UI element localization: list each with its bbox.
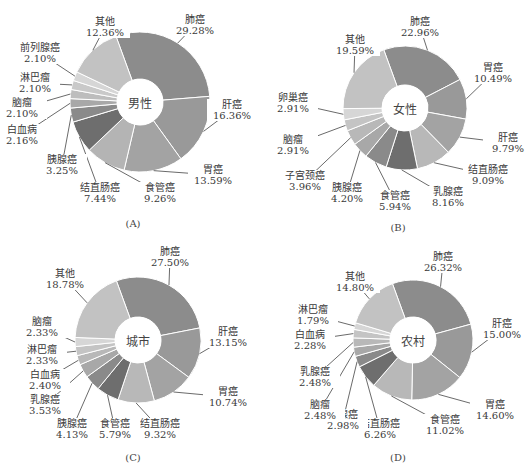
slice-category: 白血病 — [285, 329, 335, 340]
slice-percent: 9.09% — [463, 175, 513, 186]
slice-percent: 14.80% — [330, 282, 380, 293]
slice-label: 白血病2.16% — [0, 124, 47, 146]
slice-label: 脑瘤2.10% — [0, 97, 47, 119]
slice-label: 淋巴瘤2.33% — [17, 344, 67, 366]
slice-percent: 10.74% — [203, 397, 253, 408]
caption: (C) — [125, 452, 140, 463]
slice-category: 前列腺癌 — [15, 42, 65, 53]
slice-percent: 2.40% — [20, 380, 70, 391]
slice-label: 脑瘤2.33% — [17, 316, 67, 338]
slice-label: 肺癌29.28% — [170, 14, 220, 36]
slice-percent: 19.59% — [330, 45, 380, 56]
caption: (A) — [125, 218, 140, 229]
slice-percent: 10.49% — [468, 73, 518, 84]
slice-label: 肝癌15.00% — [477, 318, 527, 340]
slice-percent: 2.48% — [295, 410, 345, 421]
slice-label: 卵巢癌2.91% — [268, 92, 318, 114]
slice-label: 肝癌9.79% — [483, 132, 530, 154]
slice-percent: 4.13% — [47, 429, 97, 440]
slice-label: 食管癌9.26% — [135, 182, 185, 204]
slice-category: 淋巴瘤 — [10, 72, 60, 83]
slice-percent: 15.00% — [477, 329, 527, 340]
slice-percent: 4.20% — [322, 193, 372, 204]
slice-percent: 2.28% — [285, 340, 335, 351]
slice-category: 食管癌 — [90, 418, 140, 429]
slice-category: 结直肠癌 — [135, 418, 185, 429]
slice-label: 胃癌14.60% — [470, 399, 520, 421]
slice-category: 子宫颈癌 — [280, 170, 330, 181]
slice-label: 淋巴瘤1.79% — [288, 304, 338, 326]
slice-label: 肝癌13.15% — [203, 326, 253, 348]
slice-label: 胃癌13.59% — [188, 164, 238, 186]
slice-percent: 13.59% — [188, 175, 238, 186]
slice-label: 食管癌5.94% — [370, 190, 420, 212]
slice-category: 肝癌 — [203, 326, 253, 337]
slice-percent: 9.79% — [483, 143, 530, 154]
center-label: 男性 — [128, 94, 152, 111]
slice-percent: 3.96% — [280, 181, 330, 192]
center-label: 城市 — [126, 332, 150, 349]
slice-percent: 1.79% — [288, 315, 338, 326]
slice-category: 脑瘤 — [295, 399, 345, 410]
slice-label: 白血病2.40% — [20, 369, 70, 391]
slice-category: 结直肠癌 — [75, 182, 125, 193]
slice-percent: 2.10% — [15, 53, 65, 64]
slice-percent: 11.02% — [420, 425, 470, 436]
slice-category: 胰腺癌 — [37, 154, 87, 165]
slice-percent: 26.32% — [418, 262, 468, 273]
slice-percent: 29.28% — [170, 25, 220, 36]
slice-percent: 3.25% — [37, 165, 87, 176]
slice-label: 结直肠癌9.09% — [463, 164, 513, 186]
slice-label: 胃癌10.74% — [203, 386, 253, 408]
slice-category: 肺癌 — [395, 16, 445, 27]
slice-label: 肺癌26.32% — [418, 251, 468, 273]
pie-chart-male: 男性 (A) 肺癌29.28%肝癌16.36%胃癌13.59%食管癌9.26%结… — [0, 0, 265, 232]
slice-category: 乳腺癌 — [290, 366, 340, 377]
slice-category: 肺癌 — [145, 246, 195, 257]
slice-category: 肺癌 — [170, 14, 220, 25]
slice-category: 食管癌 — [135, 182, 185, 193]
slice-percent: 2.10% — [10, 83, 60, 94]
slice-percent: 27.50% — [145, 257, 195, 268]
slice-label: 脑瘤2.91% — [268, 134, 318, 156]
slice-percent: 12.36% — [80, 27, 130, 38]
slice-label: 肺癌22.96% — [395, 16, 445, 38]
slice-category: 白血病 — [20, 369, 70, 380]
slice-percent: 5.94% — [370, 201, 420, 212]
center-label: 农村 — [401, 332, 425, 349]
slice-label: 其他19.59% — [330, 34, 380, 56]
slice-percent: 7.44% — [75, 193, 125, 204]
slice-label: 胃癌10.49% — [468, 62, 518, 84]
slice-category: 白血病 — [0, 124, 47, 135]
slice-category: 食管癌 — [370, 190, 420, 201]
slice-category: 食管癌 — [420, 414, 470, 425]
slice-label: 食管癌5.79% — [90, 418, 140, 440]
slice-percent: 14.60% — [470, 410, 520, 421]
slice-category: 其他 — [80, 16, 130, 27]
slice-label: 其他18.78% — [40, 268, 90, 290]
slice-percent: 2.91% — [268, 103, 318, 114]
slice-category: 胃癌 — [188, 164, 238, 175]
slice-category: 肺癌 — [418, 251, 468, 262]
slice-label: 白血病2.28% — [285, 329, 335, 351]
slice-category: 其他 — [330, 271, 380, 282]
slice-category: 肝癌 — [483, 132, 530, 143]
slice-label: 食管癌11.02% — [420, 414, 470, 436]
slice-label: 其他12.36% — [80, 16, 130, 38]
slice-category: 其他 — [330, 34, 380, 45]
center-label: 女性 — [393, 100, 417, 117]
slice-category: 卵巢癌 — [268, 92, 318, 103]
slice-percent: 13.15% — [203, 337, 253, 348]
slice-label: 肝癌16.36% — [207, 99, 257, 121]
slice-percent: 22.96% — [395, 27, 445, 38]
slice-label: 脑瘤2.48% — [295, 399, 345, 421]
slice-label: 乳腺癌3.53% — [20, 394, 70, 416]
slice-label: 乳腺癌8.16% — [423, 186, 473, 208]
slice-percent: 2.10% — [0, 108, 47, 119]
slice-percent: 5.79% — [90, 429, 140, 440]
slice-category: 脑瘤 — [0, 97, 47, 108]
caption: (D) — [390, 452, 406, 463]
slice-label: 胰腺癌4.13% — [47, 418, 97, 440]
slice-percent: 2.91% — [268, 145, 318, 156]
slice-label: 结直肠癌7.44% — [75, 182, 125, 204]
